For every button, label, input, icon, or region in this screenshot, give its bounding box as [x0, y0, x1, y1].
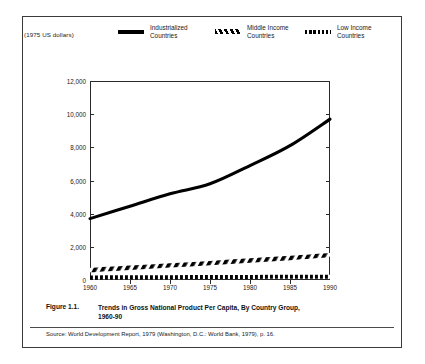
y-axis-tick-label: 8,000	[70, 144, 86, 151]
y-axis-tick-label: 2,000	[70, 243, 86, 250]
legend-swatch-hatched	[215, 29, 241, 34]
chart-legend: (1975 US dollars) Industrialized Countri…	[24, 24, 380, 50]
x-axis-tick-mark	[290, 280, 291, 284]
x-axis-tick-label: 1980	[243, 284, 257, 291]
x-axis-tick-label: 1975	[203, 284, 217, 291]
figure-root: (1975 US dollars) Industrialized Countri…	[0, 0, 425, 364]
legend-item-industrialized: Industrialized Countries	[118, 24, 188, 48]
legend-label-middle-income: Middle Income Countries	[247, 24, 289, 41]
x-axis-tick-label: 1965	[123, 284, 137, 291]
legend-label-industrialized: Industrialized Countries	[150, 24, 188, 41]
x-axis-tick-mark	[250, 280, 251, 284]
y-axis-tick-label: 10,000	[67, 111, 86, 118]
series-line-industrialized	[90, 119, 330, 219]
x-axis-tick-mark	[170, 280, 171, 284]
figure-source: Source: World Development Report, 1979 (…	[46, 331, 275, 337]
legend-swatch-solid	[118, 30, 144, 34]
series-layer	[90, 81, 330, 280]
figure-number: Figure 1.1.	[46, 303, 98, 310]
x-axis-tick-label: 1985	[283, 284, 297, 291]
figure-caption: Figure 1.1. Trends in Gross National Pro…	[46, 303, 376, 321]
x-axis-tick-mark	[130, 280, 131, 284]
y-axis-tick-label: 4,000	[70, 210, 86, 217]
legend-swatch-dotted	[305, 30, 331, 34]
x-axis-tick-label: 1990	[323, 284, 337, 291]
y-axis-tick-label: 12,000	[67, 78, 86, 85]
x-axis-tick-label: 1960	[83, 284, 97, 291]
x-axis-tick-label: 1970	[163, 284, 177, 291]
y-axis-units-label: (1975 US dollars)	[24, 31, 74, 38]
series-line-low-income	[90, 275, 330, 280]
y-axis-tick-label: 6,000	[70, 177, 86, 184]
legend-item-low-income: Low Income Countries	[305, 24, 371, 48]
legend-label-low-income: Low Income Countries	[337, 24, 371, 41]
source-divider	[30, 327, 394, 328]
y-axis-tick-label: 0	[82, 277, 86, 284]
figure-title: Trends in Gross National Product Per Cap…	[98, 303, 300, 321]
x-axis-tick-mark	[210, 280, 211, 284]
series-line-middle-income	[90, 253, 330, 272]
legend-item-middle-income: Middle Income Countries	[215, 24, 289, 48]
chart-plot-block: 02,0004,0006,0008,00010,00012,0001960196…	[24, 56, 380, 296]
